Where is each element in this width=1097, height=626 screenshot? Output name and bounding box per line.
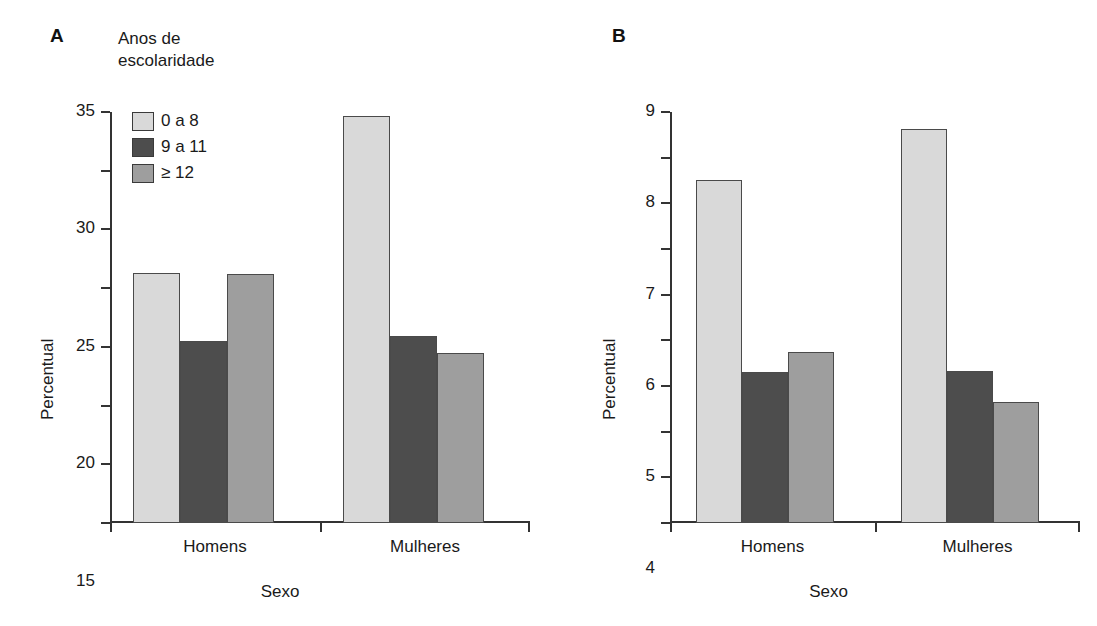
bar: [343, 116, 390, 523]
y-tick: 1: [661, 476, 670, 478]
y-tick: 4: [661, 339, 670, 341]
bar: [901, 129, 947, 523]
x-tick: [110, 523, 112, 532]
y-tick: 9: [661, 111, 670, 113]
y-tick: 0: [661, 522, 670, 524]
y-tick: 30: [101, 170, 110, 172]
y-tick-label: 8: [646, 192, 655, 212]
bar: [947, 371, 993, 523]
y-tick-label: 6: [646, 375, 655, 395]
x-tick-label: Mulheres: [390, 537, 460, 557]
bar: [742, 372, 788, 523]
panel-b-plot-area: 0123456789HomensMulheres: [670, 112, 1080, 523]
x-tick: [1078, 523, 1080, 532]
panel-b-x-axis-label: Sexo: [560, 582, 1097, 602]
y-tick: 6: [661, 248, 670, 250]
y-tick: 10: [101, 405, 110, 407]
y-tick: 5: [661, 294, 670, 296]
panel-b-y-axis-label: Percentual: [600, 339, 620, 420]
y-tick: 5: [101, 463, 110, 465]
y-tick-label: 4: [646, 558, 655, 578]
y-tick-label: 20: [76, 453, 95, 473]
bar: [390, 336, 437, 523]
panel-a-x-axis-label: Sexo: [0, 582, 560, 602]
bar: [993, 402, 1039, 523]
x-tick: [875, 523, 877, 532]
y-tick: 35: [101, 111, 110, 113]
panel-a-y-axis-label: Percentual: [38, 339, 58, 420]
y-tick-label: 5: [646, 466, 655, 486]
x-tick: [320, 523, 322, 532]
y-tick: 8: [661, 157, 670, 159]
y-tick-label: 30: [76, 218, 95, 238]
y-tick-label: 9: [646, 101, 655, 121]
x-tick-label: Mulheres: [943, 537, 1013, 557]
x-tick-label: Homens: [741, 537, 804, 557]
x-tick: [670, 523, 672, 532]
y-tick: 25: [101, 228, 110, 230]
bar: [788, 352, 834, 523]
y-tick: 0: [101, 522, 110, 524]
legend-title: Anos de escolaridade: [118, 28, 214, 72]
bar: [696, 180, 742, 523]
bar: [133, 273, 180, 523]
y-tick: 2: [661, 431, 670, 433]
figure-container: A Anos de escolaridade 0 a 8 9 a 11 ≥ 12…: [0, 0, 1097, 626]
panel-b: B Percentual 0123456789HomensMulheres Se…: [560, 0, 1097, 626]
x-tick: [528, 523, 530, 532]
y-tick: 20: [101, 287, 110, 289]
bar: [180, 341, 227, 523]
panel-b-letter: B: [612, 25, 626, 47]
y-tick-label: 7: [646, 284, 655, 304]
y-tick: 3: [661, 385, 670, 387]
y-tick: 15: [101, 346, 110, 348]
y-tick-label: 35: [76, 101, 95, 121]
y-tick: 7: [661, 202, 670, 204]
bar: [437, 353, 484, 523]
y-tick-label: 25: [76, 336, 95, 356]
panel-a-y-axis: [110, 112, 112, 523]
x-tick-label: Homens: [183, 537, 246, 557]
panel-a-plot-area: 05101520253035HomensMulheres: [110, 112, 530, 523]
panel-b-y-axis: [670, 112, 672, 523]
bar: [227, 274, 274, 523]
panel-a: A Anos de escolaridade 0 a 8 9 a 11 ≥ 12…: [0, 0, 560, 626]
panel-a-letter: A: [50, 25, 64, 47]
